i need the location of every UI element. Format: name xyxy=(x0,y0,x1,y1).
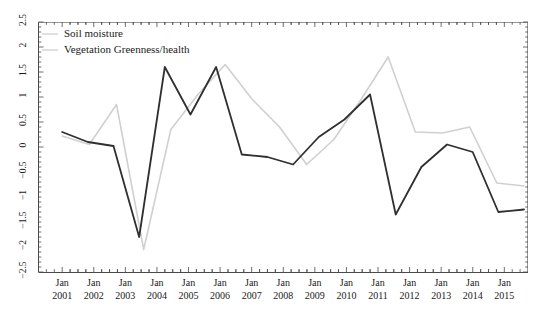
y-tick-label: −2 xyxy=(18,234,28,256)
x-tick-year: 2015 xyxy=(484,290,524,303)
y-tick-label: −1 xyxy=(18,184,28,206)
legend-label-vegetation: Vegetation Greenness/health xyxy=(64,43,190,55)
y-tick-label: 1.5 xyxy=(18,59,28,81)
x-tick-label: Jan2015 xyxy=(484,277,524,302)
chart-container: 2.521.510.50−0.5−1−1.5−2−2.5 Jan2001Jan2… xyxy=(0,0,552,317)
y-tick-label: −0.5 xyxy=(18,159,28,181)
x-tick-month: Jan xyxy=(484,277,524,290)
series-line-vegetation xyxy=(62,67,524,237)
y-tick-label: 2.5 xyxy=(18,9,28,31)
y-tick-label: 0 xyxy=(18,134,28,156)
y-tick-label: 2 xyxy=(18,34,28,56)
y-tick-label: 1 xyxy=(18,84,28,106)
data-series-group xyxy=(62,57,524,250)
series-line-soil-moisture xyxy=(62,57,524,250)
legend-label-soil-moisture: Soil moisture xyxy=(64,27,123,39)
y-tick-label: −1.5 xyxy=(18,209,28,231)
y-tick-label: 0.5 xyxy=(18,109,28,131)
y-tick-label: −2.5 xyxy=(18,259,28,281)
